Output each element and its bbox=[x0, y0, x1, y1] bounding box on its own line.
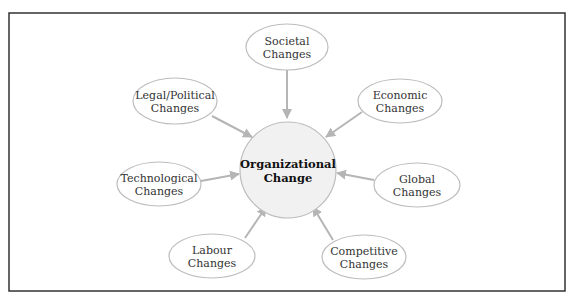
node-label-line1: Economic bbox=[373, 89, 428, 102]
node-label-line2: Changes bbox=[263, 48, 312, 61]
node-label-line1: Labour bbox=[192, 244, 233, 257]
node-technological: Technological Changes bbox=[117, 162, 201, 206]
node-label-line2: Changes bbox=[376, 102, 425, 115]
node-label-line1: Technological bbox=[121, 172, 198, 185]
center-label-line1: Organizational bbox=[240, 157, 336, 171]
node-label-line2: Changes bbox=[151, 102, 200, 115]
node-legal-political: Legal/Political Changes bbox=[133, 78, 217, 124]
node-label-line1: Legal/Political bbox=[135, 89, 215, 102]
center-label-line2: Change bbox=[264, 171, 313, 185]
node-economic: Economic Changes bbox=[358, 79, 442, 123]
node-labour: Labour Changes bbox=[169, 234, 255, 278]
node-label-line2: Changes bbox=[340, 258, 389, 271]
organizational-change-diagram: Organizational Change Societal Changes L… bbox=[0, 0, 573, 299]
node-societal: Societal Changes bbox=[246, 24, 328, 70]
node-label-line2: Changes bbox=[135, 185, 184, 198]
node-competitive: Competitive Changes bbox=[322, 235, 406, 279]
node-label-line1: Global bbox=[399, 173, 436, 186]
node-label-line2: Changes bbox=[393, 186, 442, 199]
node-label-line2: Changes bbox=[188, 257, 237, 270]
node-label-line1: Societal bbox=[265, 35, 310, 48]
center-node: Organizational Change bbox=[240, 122, 337, 218]
node-global: Global Changes bbox=[374, 163, 460, 207]
node-label-line1: Competitive bbox=[330, 245, 398, 258]
